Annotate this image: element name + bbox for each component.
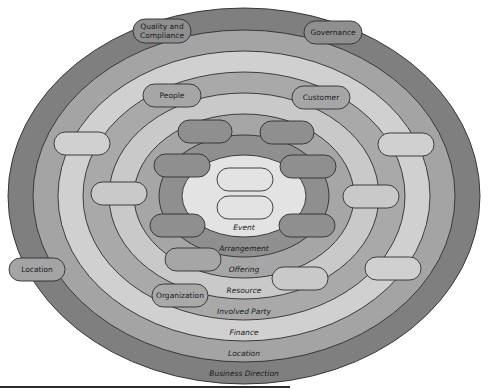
pill-shape [54, 132, 110, 155]
pill-empty [154, 154, 210, 177]
pill-empty [279, 214, 335, 237]
pill-people: People [143, 84, 201, 107]
pill-shape [272, 267, 328, 290]
pill-customer: Customer [292, 86, 350, 109]
ring-label-resource: Resource [227, 286, 262, 295]
pill-empty [378, 133, 434, 156]
pill-shape [217, 196, 273, 219]
pill-shape [365, 257, 421, 280]
pill-location: Location [9, 258, 65, 281]
pill-label: Location [21, 265, 53, 274]
pill-label: People [160, 91, 185, 100]
pill-empty [343, 185, 399, 208]
pill-label: Customer [303, 93, 340, 102]
ring-label-location: Location [228, 349, 260, 358]
pill-shape [260, 121, 314, 144]
ring-label-involved-party: Involved Party [217, 307, 271, 316]
pill-empty [280, 155, 336, 178]
pill-empty [165, 248, 221, 271]
pill-label: Compliance [140, 31, 185, 40]
base-divider-line [0, 386, 290, 388]
pill-shape [178, 120, 232, 143]
data-concept-ring-diagram: Business DirectionLocationFinanceInvolve… [0, 0, 489, 390]
pill-shape [280, 155, 336, 178]
pill-empty [272, 267, 328, 290]
pill-empty [217, 168, 273, 191]
pill-shape [154, 154, 210, 177]
ring-label-arrangement: Arrangement [218, 244, 270, 253]
pill-empty [178, 120, 232, 143]
pill-governance: Governance [304, 21, 362, 44]
pill-organization: Organization [152, 284, 208, 307]
pill-label: Organization [156, 291, 204, 300]
pill-empty [54, 132, 110, 155]
ring-label-event: Event [233, 223, 256, 232]
ring-label-business-direction: Business Direction [209, 369, 279, 378]
pill-empty [150, 214, 205, 237]
pill-shape [150, 214, 205, 237]
pill-shape [279, 214, 335, 237]
pill-quality-and-compliance: Quality andCompliance [133, 19, 191, 43]
pill-empty [365, 257, 421, 280]
ring-label-offering: Offering [229, 265, 260, 274]
pill-shape [165, 248, 221, 271]
pill-shape [217, 168, 273, 191]
ring-label-finance: Finance [229, 328, 259, 337]
pill-empty [217, 196, 273, 219]
pill-shape [91, 182, 147, 205]
pill-shape [343, 185, 399, 208]
pill-empty [260, 121, 314, 144]
pill-empty [91, 182, 147, 205]
pill-shape [378, 133, 434, 156]
pill-label: Governance [310, 28, 356, 37]
